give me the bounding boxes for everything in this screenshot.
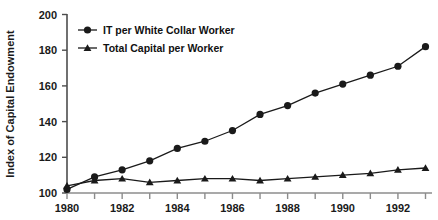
x-tick-label: 1984 bbox=[165, 202, 190, 214]
data-point-marker bbox=[312, 89, 319, 96]
y-axis-title-text: Index of Capital Endowment bbox=[4, 30, 16, 178]
x-tick-label: 1992 bbox=[386, 202, 410, 214]
data-point-marker bbox=[339, 81, 346, 88]
x-tick-label: 1982 bbox=[110, 202, 134, 214]
data-point-marker bbox=[422, 43, 429, 50]
x-tick-label: 1986 bbox=[220, 202, 244, 214]
data-point-marker bbox=[146, 157, 153, 164]
legend-label: Total Capital per Worker bbox=[103, 42, 223, 54]
y-tick-label: 100 bbox=[39, 187, 57, 199]
line-chart: Index of Capital Endowment 1001201401601… bbox=[0, 0, 438, 220]
y-tick-label: 200 bbox=[39, 9, 57, 21]
y-tick-label: 180 bbox=[39, 44, 57, 56]
y-tick-label: 160 bbox=[39, 80, 57, 92]
data-point-marker bbox=[119, 166, 126, 173]
data-point-marker bbox=[284, 102, 291, 109]
legend-circle-marker-icon bbox=[84, 26, 91, 33]
x-tick-label: 1990 bbox=[331, 202, 355, 214]
x-tick-label: 1988 bbox=[275, 202, 299, 214]
y-tick-label: 140 bbox=[39, 116, 57, 128]
data-point-marker bbox=[174, 145, 181, 152]
y-tick-label: 120 bbox=[39, 151, 57, 163]
x-tick-label: 1980 bbox=[55, 202, 79, 214]
data-point-marker bbox=[367, 72, 374, 79]
data-point-marker bbox=[201, 138, 208, 145]
data-point-marker bbox=[256, 111, 263, 118]
chart-container: Index of Capital Endowment 1001201401601… bbox=[0, 0, 438, 220]
legend-label: IT per White Collar Worker bbox=[103, 24, 235, 36]
y-axis-title: Index of Capital Endowment bbox=[4, 30, 16, 178]
data-point-marker bbox=[229, 127, 236, 134]
data-point-marker bbox=[394, 63, 401, 70]
